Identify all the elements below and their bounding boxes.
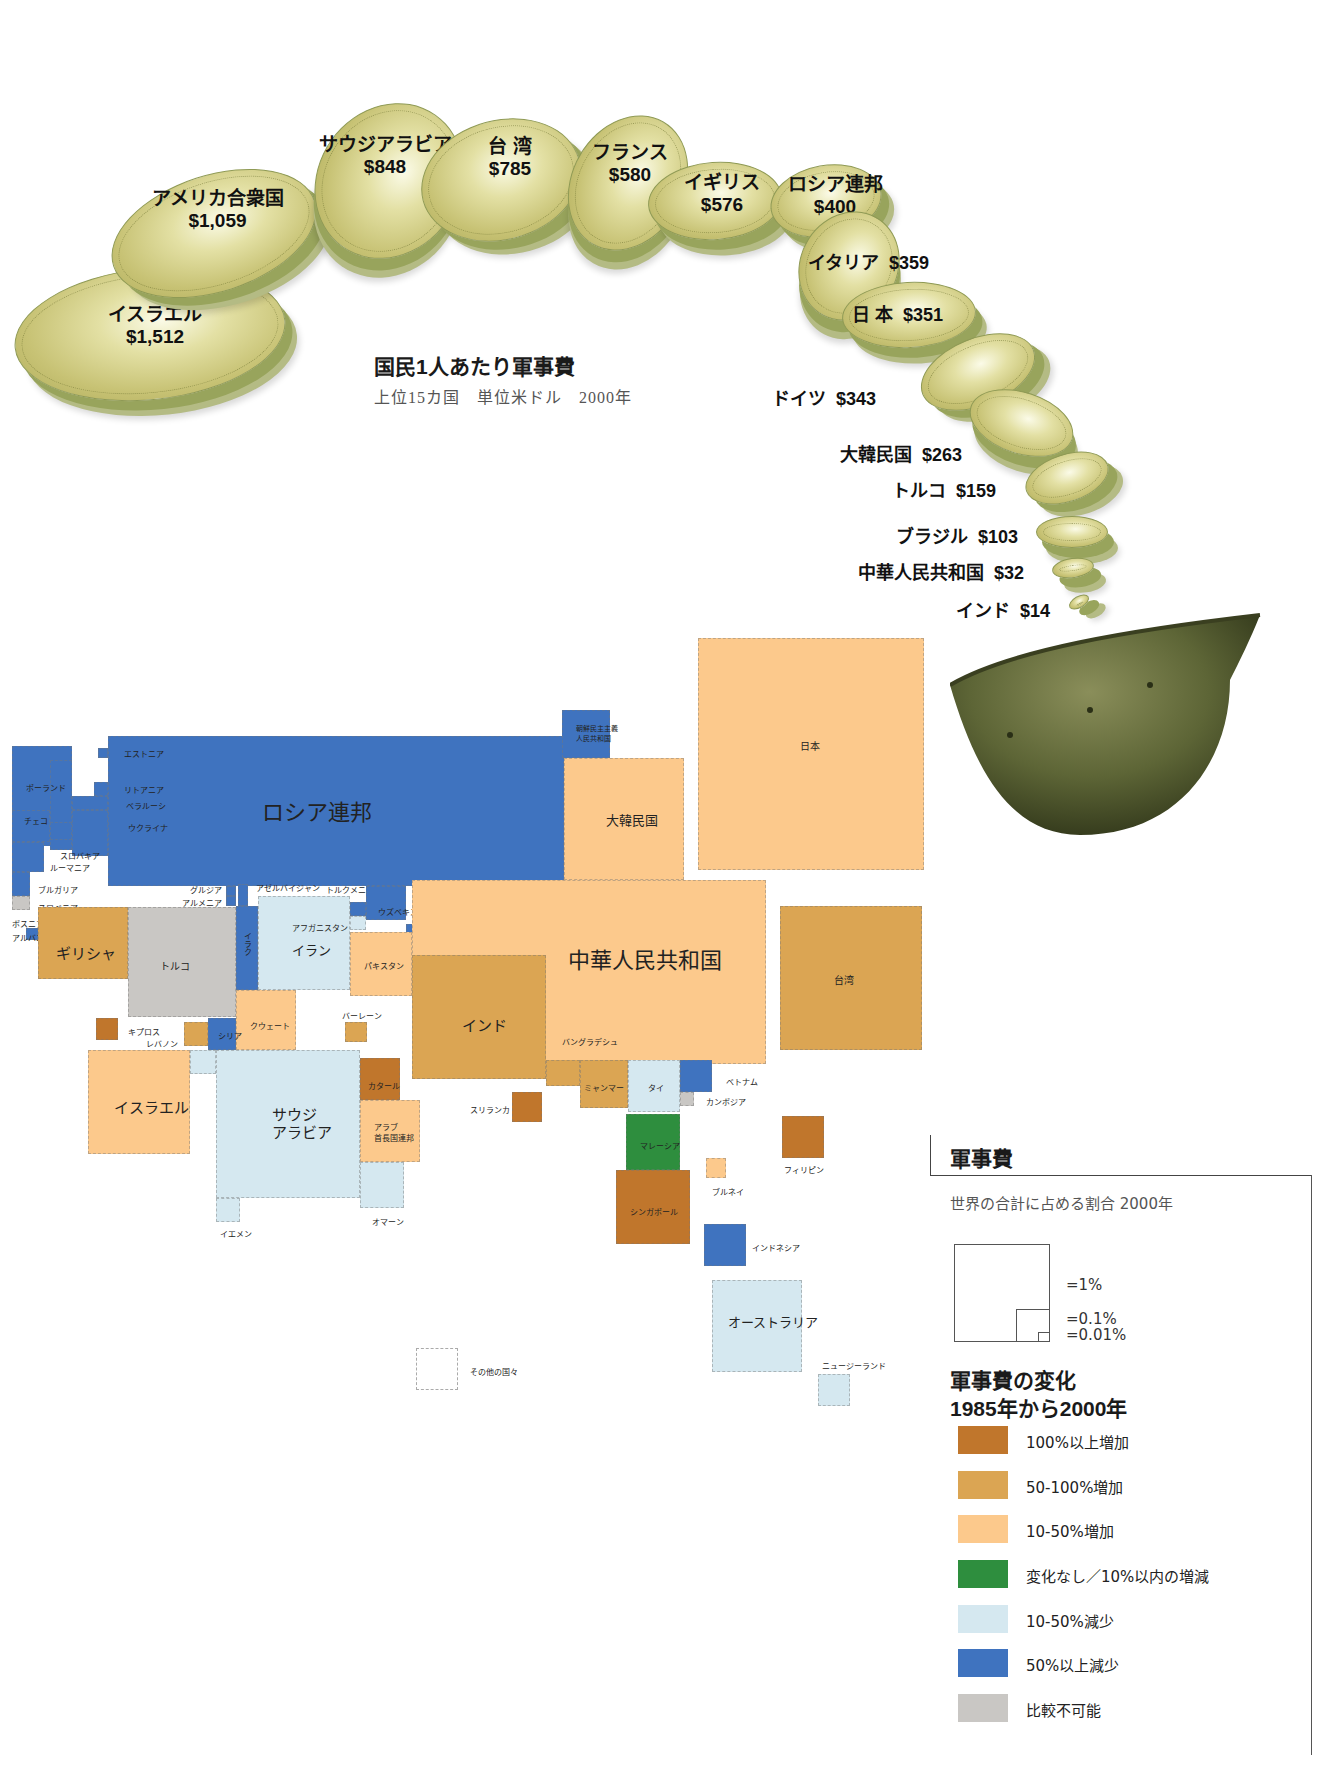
label-belarus: ベラルーシ [126, 800, 166, 811]
legend-divider [930, 1175, 1312, 1176]
label-myanmar: ミャンマー [584, 1082, 624, 1093]
coin-label-israel: イスラエル $1,512 [90, 304, 220, 348]
block-cambodia [680, 1092, 694, 1106]
label-north-korea: 朝鮮民主主義 人民共和国 [576, 724, 618, 744]
label-bahrain: バーレーン [342, 1010, 382, 1021]
legend-divider [1311, 1175, 1312, 1755]
block-lebanon [184, 1022, 208, 1046]
scale-label-1pct: =1% [1066, 1276, 1102, 1294]
block-turkmenistan [350, 902, 366, 916]
label-oman: オマーン [372, 1216, 404, 1227]
legend-change-title: 軍事費の変化 1985年から2000年 [950, 1367, 1127, 1423]
label-malaysia: マレーシア [640, 1140, 680, 1151]
per-capita-title: 国民1人あたり軍事費 [374, 350, 575, 380]
block-belarus [72, 796, 108, 810]
label-lithuania: リトアニア [124, 784, 164, 795]
block-georgia [226, 886, 236, 896]
label-czech: チェコ [24, 815, 48, 826]
block-afghanistan [350, 916, 366, 930]
block-oman [360, 1162, 404, 1208]
label-taiwan: 台湾 [834, 972, 854, 987]
coin-label-brazil: ブラジル $103 [896, 522, 1018, 548]
label-azerbaijan: アゼルバイジャン [256, 882, 320, 893]
label-cyprus: キプロス [128, 1026, 160, 1037]
label-bulgaria: ブルガリア [38, 884, 78, 895]
coin-brazil [1036, 516, 1108, 548]
coin-china [1051, 555, 1095, 581]
label-iraq: イラク [241, 932, 252, 956]
legend-divider [930, 1135, 931, 1175]
legend-swatch [958, 1471, 1008, 1499]
label-cambodia: カンボジア [706, 1096, 746, 1107]
coin-label-russia: ロシア連邦 $400 [780, 174, 890, 218]
legend-swatch [958, 1560, 1008, 1588]
helmet-icon [950, 610, 1270, 840]
block-yemen [216, 1198, 240, 1222]
block-brunei [706, 1158, 726, 1178]
block-new-zealand [818, 1374, 850, 1406]
legend-swatch [958, 1605, 1008, 1633]
label-saudi: サウジ アラビア [272, 1106, 332, 1142]
label-brunei: ブルネイ [712, 1186, 744, 1197]
coin-label-germany: ドイツ $343 [772, 384, 876, 410]
legend-swatch [958, 1426, 1008, 1454]
label-lebanon: レバノン [146, 1038, 178, 1049]
label-kuwait: クウェート [250, 1020, 290, 1031]
label-greece: ギリシャ [56, 942, 116, 963]
label-romania: ルーマニア [50, 862, 90, 873]
label-uae: アラブ 首長国連邦 [374, 1122, 414, 1144]
label-afghanistan: アフガニスタン [292, 922, 348, 933]
label-iran: イラン [292, 940, 331, 959]
label-india: インド [462, 1014, 507, 1035]
scale-square-0-01pct [1038, 1332, 1050, 1342]
label-singapore: シンガポール [630, 1206, 678, 1217]
block-slovakia [50, 822, 72, 840]
label-philippines: フィリピン [784, 1164, 824, 1175]
legend-swatch [958, 1649, 1008, 1677]
label-israel: イスラエル [114, 1096, 189, 1117]
block-armenia [226, 896, 236, 906]
label-poland: ポーランド [26, 782, 66, 793]
label-yemen: イエメン [220, 1228, 252, 1239]
label-srilanka: スリランカ [470, 1104, 510, 1115]
block-others [416, 1348, 458, 1390]
legend-title: 軍事費 [950, 1142, 1013, 1172]
label-armenia: アルメニア [182, 897, 222, 908]
block-bulgaria [12, 872, 30, 896]
block-philippines [782, 1116, 824, 1158]
label-china: 中華人民共和国 [568, 942, 722, 974]
block-srilanka [512, 1092, 542, 1122]
label-others: その他の国々 [470, 1366, 518, 1377]
block-japan [698, 638, 924, 870]
block-lithuania [94, 782, 108, 796]
coin-label-japan: 日 本 $351 [852, 300, 943, 326]
label-indonesia: インドネシア [752, 1242, 800, 1253]
block-jordan [190, 1050, 216, 1074]
block-bahrain [345, 1022, 367, 1042]
block-azerbaijan [238, 884, 248, 906]
block-romania [12, 842, 44, 872]
coin-label-china: 中華人民共和国 $32 [858, 558, 1024, 584]
block-indonesia [704, 1224, 746, 1266]
label-australia: オーストラリア [728, 1312, 818, 1331]
label-pakistan: パキスタン [364, 960, 404, 971]
label-south-korea: 大韓民国 [606, 810, 658, 829]
coin-label-uk: イギリス $576 [672, 172, 772, 216]
legend-swatch [958, 1515, 1008, 1543]
label-new-zealand: ニュージーランド [822, 1360, 886, 1371]
label-qatar: カタール [368, 1080, 400, 1091]
coin-label-usa: アメリカ合衆国 $1,059 [140, 188, 295, 232]
label-turkey: トルコ [160, 958, 190, 973]
block-bangladesh [546, 1060, 580, 1086]
label-syria: シリア [218, 1030, 242, 1041]
coin-label-taiwan: 台 湾 $785 [470, 136, 550, 180]
block-slovenia [12, 896, 30, 910]
label-ukraine: ウクライナ [128, 822, 168, 833]
label-slovakia: スロバキア [60, 850, 100, 861]
legend-swatch [958, 1694, 1008, 1722]
block-vietnam [680, 1060, 712, 1092]
coin-label-italy: イタリア $359 [808, 248, 929, 274]
block-estonia [98, 748, 108, 758]
coin-label-korea: 大韓民国 $263 [840, 440, 962, 466]
label-vietnam: ベトナム [726, 1076, 758, 1087]
